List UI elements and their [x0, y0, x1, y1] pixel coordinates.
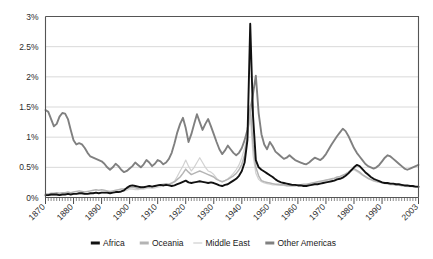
legend-label: Other Americas — [278, 238, 337, 248]
y-tick-label: 2% — [26, 72, 39, 82]
y-tick-label: 2.5% — [19, 42, 39, 52]
legend-label: Middle East — [205, 238, 250, 248]
legend-label: Oceania — [152, 238, 184, 248]
y-tick-label: 0.5% — [19, 162, 39, 172]
y-tick-label: 0% — [26, 193, 39, 203]
y-tick-label: 1% — [26, 132, 39, 142]
line-chart: 0%0.5%1%1.5%2%2.5%3% 1870188018901900191… — [0, 0, 433, 259]
y-tick-label: 1.5% — [19, 102, 39, 112]
legend-label: Africa — [103, 238, 125, 248]
y-tick-label: 3% — [26, 12, 39, 22]
chart-canvas: 0%0.5%1%1.5%2%2.5%3% 1870188018901900191… — [0, 0, 433, 259]
